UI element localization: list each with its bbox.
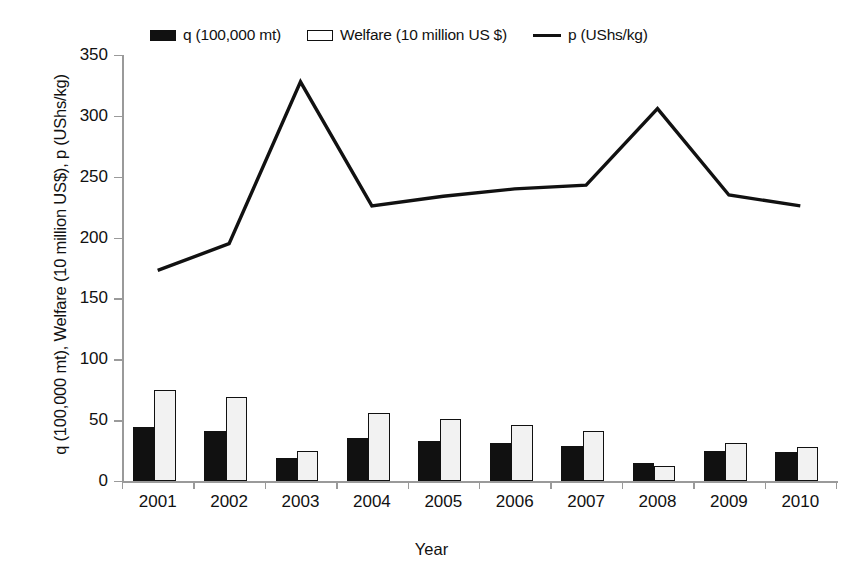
chart-figure: q (100,000 mt) Welfare (10 million US $)… (0, 0, 863, 576)
x-tick-8 (693, 481, 694, 489)
x-tick-1 (193, 481, 194, 489)
y-tick-label-150: 150 (48, 288, 108, 308)
y-tick-label-100: 100 (48, 349, 108, 369)
x-tick-3 (336, 481, 337, 489)
price-line-path (158, 82, 801, 271)
y-tick-label-200: 200 (48, 228, 108, 248)
x-tick-5 (479, 481, 480, 489)
x-tick-7 (622, 481, 623, 489)
line-marker-icon (533, 34, 561, 37)
legend-label-p: p (UShs/kg) (568, 26, 648, 44)
x-tick-9 (765, 481, 766, 489)
x-tick-4 (408, 481, 409, 489)
y-tick-label-300: 300 (48, 106, 108, 126)
x-tick-0 (122, 481, 123, 489)
y-tick-label-350: 350 (48, 45, 108, 65)
x-tick-2 (265, 481, 266, 489)
y-tick-label-50: 50 (48, 410, 108, 430)
x-tick-10 (836, 481, 837, 489)
x-tick-label-2010: 2010 (740, 492, 860, 512)
x-tick-6 (550, 481, 551, 489)
y-tick-label-0: 0 (48, 471, 108, 491)
legend-item-welfare: Welfare (10 million US $) (307, 26, 507, 44)
open-square-icon (307, 30, 333, 41)
line-series-group (122, 55, 836, 481)
filled-square-icon (150, 30, 176, 41)
legend-label-q: q (100,000 mt) (183, 26, 281, 44)
y-tick-label-250: 250 (48, 167, 108, 187)
x-axis-title: Year (0, 540, 863, 559)
legend-item-p: p (UShs/kg) (533, 26, 648, 44)
price-line-svg (122, 55, 836, 481)
legend-label-welfare: Welfare (10 million US $) (340, 26, 507, 44)
chart-legend: q (100,000 mt) Welfare (10 million US $)… (150, 22, 790, 48)
legend-item-q: q (100,000 mt) (150, 26, 281, 44)
